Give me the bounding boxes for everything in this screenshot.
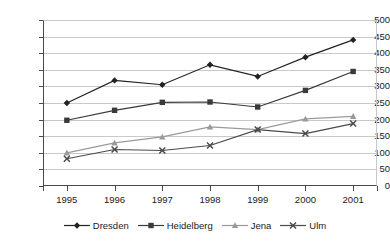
legend-swatch-triangle-icon [222,220,248,231]
legend-swatch-cross-x-icon [280,220,306,231]
legend-label: Dresden [93,220,129,231]
x-axis-tick [305,186,306,191]
x-axis-tick [43,186,44,191]
x-axis-tick [258,186,259,191]
legend-item-jena[interactable]: Jena [222,220,272,231]
legend-swatch-diamond-icon [64,220,90,231]
line-chart: 050100150200250300350400450500 199519961… [0,0,390,242]
legend-label: Ulm [309,220,326,231]
x-axis-tick [377,186,378,191]
legend-label: Heidelberg [167,220,213,231]
legend-item-heidelberg[interactable]: Heidelberg [138,220,213,231]
chart-legend: DresdenHeidelbergJenaUlm [0,220,390,231]
data-point-diamond [74,222,80,228]
plot-area [43,20,377,186]
legend-label: Jena [251,220,272,231]
data-point-square [148,223,153,228]
x-axis-tick [115,186,116,191]
legend-item-dresden[interactable]: Dresden [64,220,129,231]
x-axis-label: 2001 [323,194,383,205]
legend-item-ulm[interactable]: Ulm [280,220,326,231]
x-axis-tick [210,186,211,191]
x-axis-tick [162,186,163,191]
x-axis-tick [353,186,354,191]
legend-swatch-square-icon [138,220,164,231]
x-axis-tick [67,186,68,191]
